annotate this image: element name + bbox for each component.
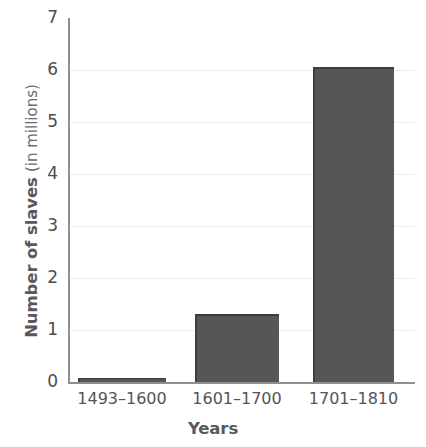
- y-axis-tick-label: 5: [36, 113, 58, 130]
- bar-chart: Number of slaves (in millions) 01234567 …: [0, 0, 426, 447]
- y-axis-tick-label: 7: [36, 9, 58, 26]
- plot-area: [68, 18, 415, 382]
- y-axis-tick-label: 2: [36, 269, 58, 286]
- bar[interactable]: [195, 314, 279, 382]
- y-axis-tick-label: 1: [36, 321, 58, 338]
- bar[interactable]: [313, 67, 394, 382]
- y-axis-line: [68, 18, 70, 383]
- y-axis-tick-label: 6: [36, 61, 58, 78]
- y-axis-tick-label: 4: [36, 165, 58, 182]
- x-axis-line: [68, 382, 415, 384]
- y-axis-tick-label: 0: [36, 373, 58, 390]
- y-axis-tick-labels: 01234567: [30, 0, 58, 447]
- x-axis-tick-label: 1701–1810: [274, 389, 426, 409]
- y-axis-tick-label: 3: [36, 217, 58, 234]
- x-axis-title: Years: [0, 419, 426, 438]
